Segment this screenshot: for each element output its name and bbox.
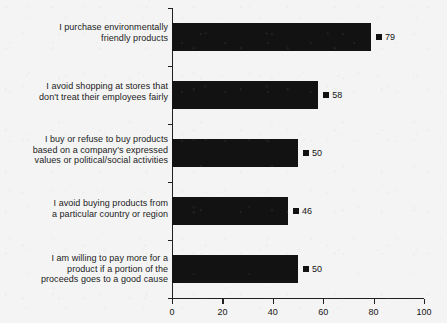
x-axis-label: 60	[318, 307, 328, 317]
y-axis-tick	[168, 182, 173, 183]
plot-area: 79 58 50 46 50 020406080100	[172, 8, 424, 298]
bar-chart: I purchase environmentally friendly prod…	[0, 0, 447, 323]
bar-4	[172, 197, 288, 225]
bar-2	[172, 81, 318, 109]
x-axis-line	[172, 298, 424, 299]
value-marker-2	[323, 92, 329, 98]
y-axis-tick	[168, 8, 173, 9]
value-marker-5	[303, 266, 309, 272]
category-label-2: I avoid shopping at stores that don't tr…	[39, 81, 168, 102]
y-axis-tick	[168, 240, 173, 241]
x-axis-tick	[424, 299, 425, 304]
value-marker-3	[303, 150, 309, 156]
value-marker-4	[293, 208, 299, 214]
category-label-1: I purchase environmentally friendly prod…	[59, 22, 168, 43]
x-axis-label: 20	[217, 307, 227, 317]
category-label-4: I avoid buying products from a particula…	[52, 198, 168, 219]
category-label-3: I buy or refuse to buy products based on…	[33, 134, 168, 166]
y-axis-tick	[168, 124, 173, 125]
x-axis-label: 100	[416, 307, 431, 317]
y-axis-tick	[168, 66, 173, 67]
bar-3	[172, 139, 298, 167]
x-axis-tick	[222, 299, 223, 304]
value-marker-1	[376, 34, 382, 40]
bar-5	[172, 255, 298, 283]
x-axis-tick	[374, 299, 375, 304]
value-label-4: 46	[302, 207, 312, 216]
value-label-1: 79	[385, 33, 395, 42]
x-axis-tick	[273, 299, 274, 304]
x-axis-label: 0	[169, 307, 174, 317]
x-axis-tick	[172, 299, 173, 304]
x-axis-label: 80	[369, 307, 379, 317]
x-axis-label: 40	[268, 307, 278, 317]
bar-1	[172, 23, 371, 51]
value-label-5: 50	[312, 265, 322, 274]
value-label-2: 58	[332, 91, 342, 100]
x-axis-tick	[323, 299, 324, 304]
value-label-3: 50	[312, 149, 322, 158]
category-label-5: I am willing to pay more for a product i…	[41, 253, 168, 285]
